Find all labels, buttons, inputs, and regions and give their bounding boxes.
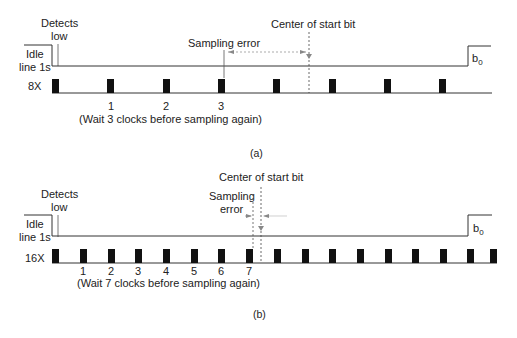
clock-pulse [218, 79, 225, 93]
arrow-right-icon [246, 214, 252, 218]
clock-pulse [52, 249, 59, 263]
clock-pulse [302, 249, 309, 263]
clock-pulse [467, 249, 474, 263]
arrow-right-icon [300, 50, 306, 54]
panel-a: Detects low Idle line 1s b0 Center of st… [19, 17, 492, 159]
clock-pulse [384, 79, 391, 93]
clock-pulse [246, 249, 253, 263]
clock-pulse [107, 79, 114, 93]
signal-waveform-b [24, 215, 492, 236]
arrow-left-icon [263, 214, 269, 218]
clock-pulse [440, 249, 447, 263]
idle-label-a-2: line 1s [19, 61, 51, 73]
detects-low-label-b-1: Detects [41, 188, 79, 200]
arrow-down-icon [306, 54, 312, 59]
tick-label-b-7: 7 [246, 265, 252, 277]
b0-label-b: b0 [473, 222, 484, 237]
clock-label-8x: 8X [28, 80, 42, 92]
tick-label-b-2: 2 [108, 265, 114, 277]
clock-pulse [163, 249, 170, 263]
clock-pulse [357, 249, 364, 263]
b0-label-a: b0 [472, 52, 483, 67]
clock-pulse [191, 249, 198, 263]
detects-low-label-a-1: Detects [41, 17, 79, 29]
center-start-bit-label-b: Center of start bit [219, 171, 303, 183]
sampling-error-label-b-1: Sampling [209, 190, 255, 202]
idle-label-b-1: Idle [26, 218, 44, 230]
detects-low-label-a-2: low [51, 30, 68, 42]
sampling-error-label-b-2: error [220, 203, 244, 215]
clock-pulse [273, 79, 280, 93]
sampling-error-label-a: Sampling error [188, 37, 260, 49]
clock-pulse [274, 249, 281, 263]
idle-label-b-2: line 1s [19, 231, 51, 243]
idle-label-a-1: Idle [26, 48, 44, 60]
clock-pulse [490, 249, 497, 263]
clock-pulse [385, 249, 392, 263]
clock-label-16x: 16X [25, 252, 45, 264]
clock-pulse [135, 249, 142, 263]
clock-pulses-8x [52, 79, 446, 93]
arrow-left-icon [228, 50, 234, 54]
caption-a: (a) [250, 147, 263, 159]
tick-label-b-4: 4 [163, 265, 169, 277]
tick-label-b-3: 3 [135, 265, 141, 277]
uart-sampling-diagram: Detects low Idle line 1s b0 Center of st… [0, 0, 517, 338]
tick-label-a-2: 2 [163, 100, 169, 112]
clock-pulse [80, 249, 87, 263]
center-start-bit-label-a: Center of start bit [271, 18, 355, 30]
caption-b: (b) [253, 308, 266, 320]
arrow-down-icon [258, 226, 264, 231]
detects-low-label-b-2: low [51, 201, 68, 213]
clock-pulse [163, 79, 170, 93]
wait-note-a: (Wait 3 clocks before sampling again) [79, 113, 262, 125]
clock-pulse [329, 249, 336, 263]
clock-pulses-16x [52, 249, 497, 263]
tick-label-a-1: 1 [108, 100, 114, 112]
tick-label-b-5: 5 [191, 265, 197, 277]
clock-pulse [329, 79, 336, 93]
clock-pulse [52, 79, 59, 93]
clock-pulse [412, 249, 419, 263]
panel-b: Detects low Idle line 1s b0 Center of st… [19, 171, 497, 320]
tick-label-b-6: 6 [218, 265, 224, 277]
clock-pulse [218, 249, 225, 263]
tick-label-a-3: 3 [218, 100, 224, 112]
clock-pulse [108, 249, 115, 263]
clock-pulse [439, 79, 446, 93]
tick-label-b-1: 1 [80, 265, 86, 277]
wait-note-b: (Wait 7 clocks before sampling again) [77, 277, 260, 289]
